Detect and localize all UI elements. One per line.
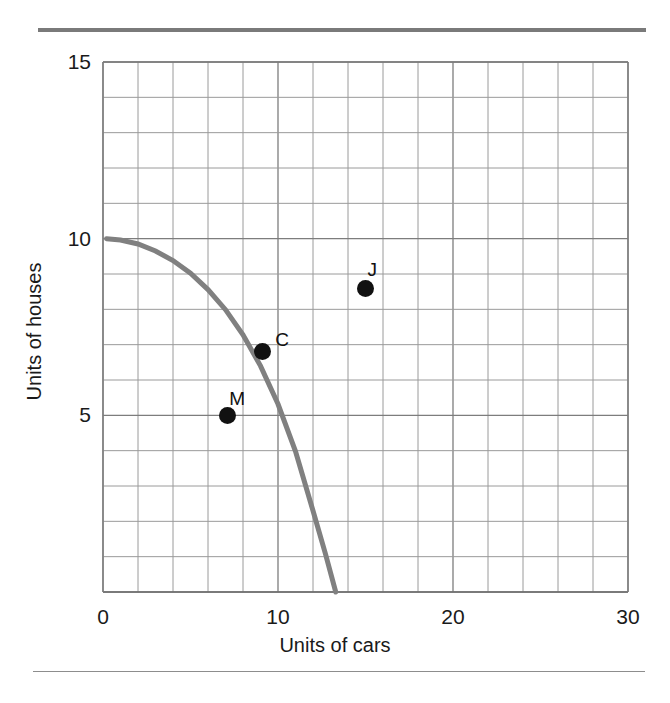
chart-figure: JCM 51015 0102030 Units of houses Units … <box>0 0 670 703</box>
data-point-j[interactable] <box>357 280 374 297</box>
bottom-divider-rule <box>33 671 645 672</box>
plot-area: JCM <box>103 62 628 592</box>
data-point-label-m: M <box>229 389 245 408</box>
x-axis-title: Units of cars <box>0 634 670 657</box>
x-tick-label-30: 30 <box>593 606 663 627</box>
y-axis-title: Units of houses <box>23 202 46 462</box>
top-divider-rule <box>38 28 646 32</box>
data-point-label-c: C <box>275 330 289 349</box>
y-tick-label-15: 15 <box>31 51 91 72</box>
data-point-label-j: J <box>368 260 378 279</box>
ppf-curve <box>103 62 628 592</box>
data-point-c[interactable] <box>254 343 271 360</box>
x-tick-label-0: 0 <box>68 606 138 627</box>
x-tick-label-10: 10 <box>243 606 313 627</box>
data-point-m[interactable] <box>219 407 236 424</box>
x-tick-label-20: 20 <box>418 606 488 627</box>
